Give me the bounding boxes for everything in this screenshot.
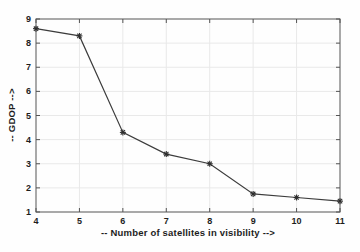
x-axis-label: -- Number of satellites in visibility --… [36,227,340,238]
x-tick-label: 7 [164,216,169,226]
y-tick-label: 9 [26,14,31,24]
x-tick-label: 8 [207,216,212,226]
x-tick-label: 4 [33,216,38,226]
x-tick-label: 9 [251,216,256,226]
data-point-marker [33,26,39,32]
data-point-marker [76,33,82,39]
y-tick-label: 6 [26,86,31,96]
x-tick-label: 11 [335,216,345,226]
data-point-marker [163,151,169,157]
y-tick-label: 5 [26,111,31,121]
x-tick-label: 6 [120,216,125,226]
y-tick-label: 4 [26,135,31,145]
data-point-marker [120,129,126,135]
y-tick-label: 1 [26,207,31,217]
y-tick-label: 2 [26,183,31,193]
x-tick-label: 5 [77,216,82,226]
y-tick-label: 7 [26,62,31,72]
gdop-line-chart: 4567891011123456789 [0,0,360,252]
data-point-marker [337,198,343,204]
y-tick-label: 3 [26,159,31,169]
data-point-marker [250,191,256,197]
data-point-marker [207,161,213,167]
data-point-marker [294,195,300,201]
gdop-figure: 4567891011123456789 -- Number of satelli… [0,0,360,252]
y-axis-label: -- GDOP --> [6,88,17,142]
x-tick-label: 10 [292,216,302,226]
y-tick-label: 8 [26,38,31,48]
